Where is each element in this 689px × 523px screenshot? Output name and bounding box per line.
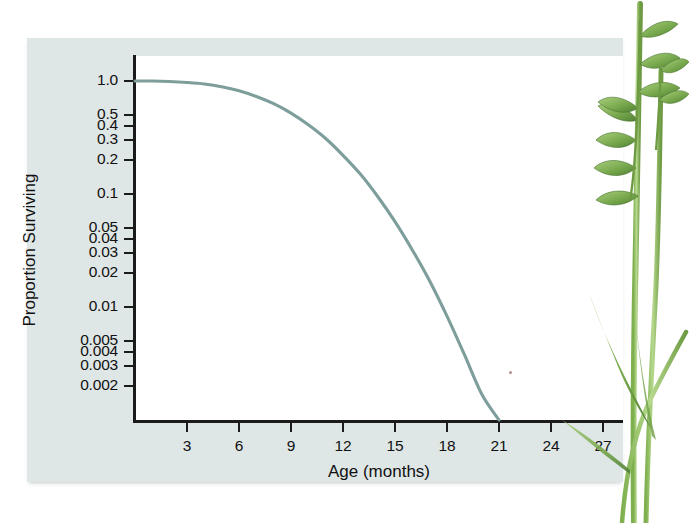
- x-tick-mark: [394, 422, 396, 432]
- x-tick-label: 18: [427, 437, 467, 455]
- y-tick-mark: [124, 340, 134, 342]
- x-tick-mark: [186, 422, 188, 432]
- y-tick-mark: [124, 306, 134, 308]
- y-tick-mark: [124, 351, 134, 353]
- y-tick-mark: [124, 125, 134, 127]
- y-tick-mark: [124, 80, 134, 82]
- y-tick-mark: [124, 365, 134, 367]
- x-tick-label: 12: [323, 437, 363, 455]
- x-tick-label: 24: [531, 437, 571, 455]
- y-tick-mark: [124, 252, 134, 254]
- y-tick-mark: [124, 114, 134, 116]
- y-tick-mark: [124, 227, 134, 229]
- y-axis-title: Proportion Surviving: [20, 150, 40, 350]
- x-tick-label: 27: [583, 437, 623, 455]
- x-tick-label: 9: [271, 437, 311, 455]
- y-tick-label: 0.003: [20, 356, 118, 374]
- y-tick-mark: [124, 139, 134, 141]
- y-tick-mark: [124, 159, 134, 161]
- x-tick-mark: [446, 422, 448, 432]
- x-tick-mark: [550, 422, 552, 432]
- x-tick-mark: [342, 422, 344, 432]
- x-tick-mark: [498, 422, 500, 432]
- x-tick-mark: [602, 422, 604, 432]
- figure-page: 1.00.50.40.30.20.10.050.040.030.020.010.…: [0, 0, 689, 523]
- y-tick-label: 1.0: [20, 71, 118, 89]
- y-tick-mark: [124, 193, 134, 195]
- y-tick-label: 0.3: [20, 130, 118, 148]
- x-tick-mark: [238, 422, 240, 432]
- y-tick-mark: [124, 238, 134, 240]
- plot-area: [135, 56, 623, 421]
- y-tick-mark: [124, 272, 134, 274]
- y-tick-label: 0.002: [20, 376, 118, 394]
- x-tick-label: 6: [219, 437, 259, 455]
- paper-speck: [509, 371, 512, 374]
- x-tick-mark: [290, 422, 292, 432]
- x-tick-label: 15: [375, 437, 415, 455]
- x-axis-title: Age (months): [135, 462, 623, 482]
- x-tick-label: 21: [479, 437, 519, 455]
- x-tick-label: 3: [167, 437, 207, 455]
- y-tick-mark: [124, 385, 134, 387]
